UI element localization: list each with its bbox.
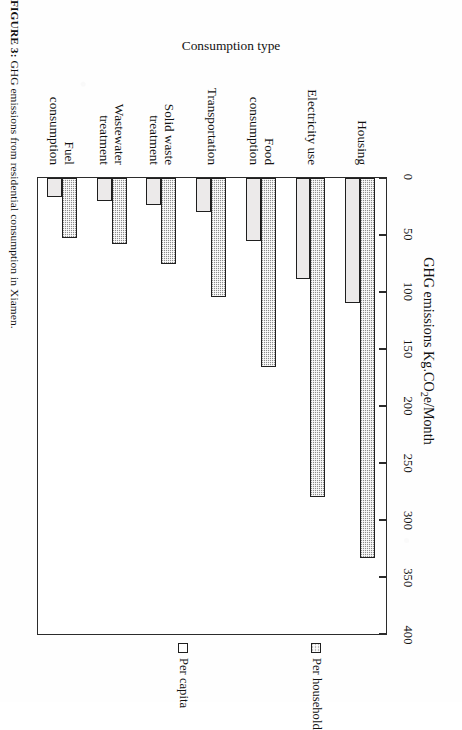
bar-per-capita — [47, 178, 62, 197]
bar-group — [187, 178, 237, 634]
legend-entry[interactable]: Per capita — [176, 643, 191, 708]
bar-per-capita — [246, 178, 261, 241]
bar-per-household — [360, 178, 375, 558]
value-axis-title-suffix: e/Month — [421, 397, 437, 445]
value-axis-tick-label: 150 — [400, 339, 415, 358]
category-label-line: treatment — [147, 19, 162, 165]
bar-group — [287, 178, 337, 634]
category-label: Solid wastetreatment — [147, 19, 178, 165]
category-label: Electricity use — [304, 19, 319, 165]
value-axis-tick-mark — [379, 576, 386, 577]
value-axis-tick-label: 200 — [400, 397, 415, 416]
bar-per-household — [211, 178, 226, 297]
legend-swatch-icon — [179, 643, 189, 653]
value-axis-tick-label: 350 — [400, 568, 415, 587]
value-axis-title: GHG emissions Kg.CO2e/Month — [420, 21, 437, 681]
category-label-line: Housing — [354, 19, 369, 165]
value-axis-title-prefix: GHG emissions Kg.CO — [421, 257, 437, 391]
legend-entry[interactable]: Per household — [309, 643, 324, 730]
category-label-line: consumption — [247, 19, 262, 165]
legend-swatch-icon — [312, 643, 322, 653]
category-label-line: Wastewater — [112, 19, 127, 165]
bar-per-capita — [345, 178, 360, 303]
value-axis-tick-label: 0 — [400, 174, 415, 180]
category-label: Wastewatertreatment — [97, 19, 128, 165]
legend-label: Per household — [309, 658, 324, 730]
bar-per-household — [261, 178, 276, 367]
plot-frame — [37, 177, 387, 635]
bar-group — [137, 178, 187, 634]
value-axis-tick-label: 100 — [400, 282, 415, 301]
bar-chart: GHG emissions Kg.CO2e/Month Consumption … — [21, 21, 441, 681]
bar-per-capita — [296, 178, 311, 279]
value-axis-tick-mark — [379, 291, 386, 292]
value-axis-tick-mark — [379, 405, 386, 406]
bar-per-household — [62, 178, 77, 238]
category-label-line: Electricity use — [304, 19, 319, 165]
category-label: Foodconsumption — [247, 19, 278, 165]
value-axis-tick-label: 300 — [400, 511, 415, 530]
category-label-line: Food — [262, 19, 277, 165]
value-axis-tick-label: 250 — [400, 454, 415, 473]
category-label: Fuelconsumption — [47, 19, 78, 165]
bar-per-capita — [146, 178, 161, 205]
category-label: Transportation — [204, 19, 219, 165]
value-axis-title-subscript: 2 — [420, 392, 431, 397]
bar-per-capita — [97, 178, 112, 201]
category-label-line: consumption — [47, 19, 62, 165]
bar-group — [38, 178, 88, 634]
bar-group — [237, 178, 287, 634]
value-axis-tick-label: 400 — [400, 626, 415, 645]
bar-per-household — [112, 178, 127, 244]
value-axis-tick-labels: 050100150200250300350400 — [389, 177, 415, 635]
bar-per-household — [161, 178, 176, 264]
category-label-line: Fuel — [62, 19, 77, 165]
value-axis-tick-mark — [379, 519, 386, 520]
value-axis-tick-mark — [379, 633, 386, 634]
value-axis-tick-mark — [379, 348, 386, 349]
value-axis-tick-label: 50 — [400, 228, 415, 241]
category-label: Housing — [354, 19, 369, 165]
category-label-line: Solid waste — [162, 19, 177, 165]
category-label-line: Transportation — [204, 19, 219, 165]
bar-per-household — [310, 178, 325, 497]
legend-label: Per capita — [176, 658, 191, 708]
bar-per-capita — [196, 178, 211, 212]
value-axis-tick-mark — [379, 234, 386, 235]
chart-legend: Per householdPer capita — [37, 637, 387, 683]
value-axis-tick-mark — [379, 462, 386, 463]
category-axis-labels: HousingElectricity useFoodconsumptionTra… — [37, 21, 387, 171]
value-axis-tick-mark — [379, 177, 386, 178]
bars-layer — [38, 178, 386, 634]
bar-group — [88, 178, 138, 634]
category-label-line: treatment — [97, 19, 112, 165]
chart-plot-container: GHG emissions Kg.CO2e/Month Consumption … — [21, 21, 441, 681]
